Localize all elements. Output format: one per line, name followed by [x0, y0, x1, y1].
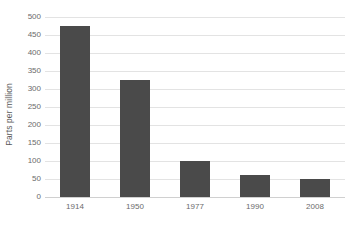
x-axis-labels: 19141950197719902008	[45, 199, 345, 215]
y-tick-label: 200	[28, 121, 41, 129]
y-tick-label: 300	[28, 85, 41, 93]
plot-area: 500450400350300250200150100500	[45, 17, 345, 197]
y-tick-label: 0	[37, 193, 41, 201]
bars	[45, 17, 345, 197]
bar-slot	[285, 17, 345, 197]
x-tick-label-2008: 2008	[285, 199, 345, 215]
bar-slot	[45, 17, 105, 197]
bar-chart: Parts per million 5004504003503002502001…	[0, 0, 360, 229]
bar-slot	[105, 17, 165, 197]
bar-slot	[165, 17, 225, 197]
bar-slot	[225, 17, 285, 197]
x-tick-label-1950: 1950	[105, 199, 165, 215]
y-axis-title: Parts per million	[0, 0, 18, 229]
y-tick-label: 250	[28, 103, 41, 111]
y-tick-label: 150	[28, 139, 41, 147]
y-tick-label: 450	[28, 31, 41, 39]
x-tick-label-1990: 1990	[225, 199, 285, 215]
bar-1950[interactable]	[120, 80, 150, 197]
bar-1914[interactable]	[60, 26, 90, 197]
y-tick-label: 500	[28, 13, 41, 21]
y-tick-label: 400	[28, 49, 41, 57]
bar-2008[interactable]	[300, 179, 330, 197]
y-tick-label: 100	[28, 157, 41, 165]
y-tick-label: 350	[28, 67, 41, 75]
bar-1990[interactable]	[240, 175, 270, 197]
x-tick-label-1914: 1914	[45, 199, 105, 215]
bar-1977[interactable]	[180, 161, 210, 197]
axis-baseline: 0	[45, 197, 345, 198]
y-tick-label: 50	[32, 175, 41, 183]
x-tick-label-1977: 1977	[165, 199, 225, 215]
